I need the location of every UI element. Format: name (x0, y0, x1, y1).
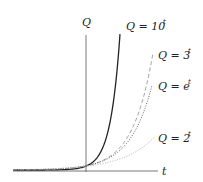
y-axis-label: Q (82, 16, 91, 29)
curve-2-t (13, 137, 155, 170)
curve-3-t (13, 53, 153, 170)
svg-text:t: t (188, 78, 191, 86)
label-3-t: Q = 3 t (158, 47, 191, 62)
svg-text:t: t (188, 130, 191, 138)
label-10-t: Q = 10 t (126, 18, 166, 33)
svg-text:Q = e: Q = e (158, 80, 190, 93)
label-e-t: Q = e t (158, 78, 191, 93)
label-2-t: Q = 2 t (158, 130, 191, 145)
svg-text:t: t (163, 18, 166, 26)
svg-text:Q = 2: Q = 2 (158, 132, 190, 145)
curve-10-t (13, 34, 120, 170)
x-axis-label: t (162, 165, 167, 178)
svg-text:Q = 3: Q = 3 (158, 49, 190, 62)
svg-text:t: t (188, 47, 191, 55)
exponential-chart: Q t Q = 10 t Q = 3 t Q = e t Q = 2 t (0, 0, 203, 182)
svg-text:Q = 10: Q = 10 (126, 20, 165, 33)
curve-e-t (13, 85, 152, 170)
